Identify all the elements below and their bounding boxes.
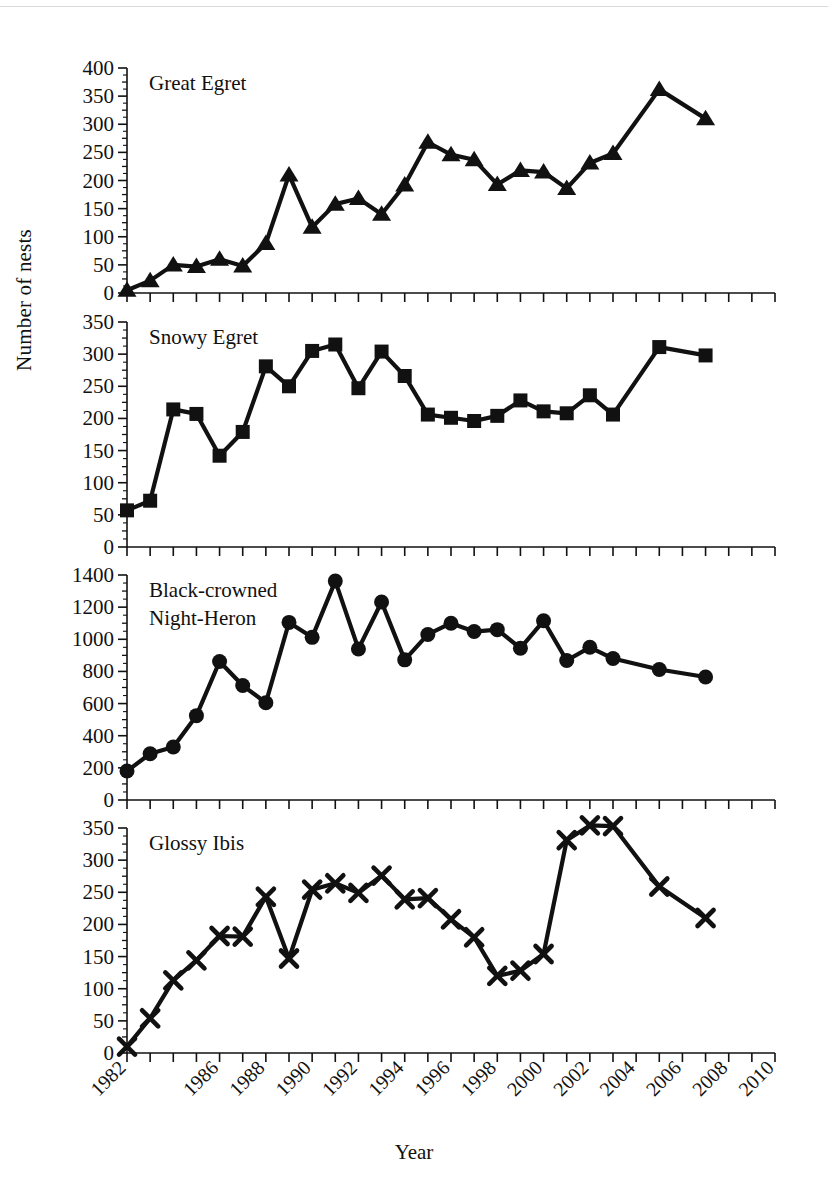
y-tick-label: 600 xyxy=(83,692,115,716)
data-point-marker xyxy=(189,407,203,421)
data-point-marker xyxy=(467,414,481,428)
panel-snowy-egret: 050100150200250300350Snowy Egret xyxy=(83,310,776,559)
data-point-marker xyxy=(350,885,366,901)
data-point-marker xyxy=(328,338,342,352)
y-tick-label: 150 xyxy=(83,197,115,221)
y-tick-label: 1000 xyxy=(72,627,114,651)
data-point-marker xyxy=(513,393,527,407)
data-point-marker xyxy=(652,340,666,354)
x-tick-label: 1994 xyxy=(364,1056,408,1100)
data-point-marker xyxy=(143,746,158,761)
y-tick-label: 100 xyxy=(83,471,115,495)
y-tick-label: 350 xyxy=(83,84,115,108)
x-tick-label: 2002 xyxy=(549,1056,593,1100)
data-point-marker xyxy=(305,344,319,358)
data-point-marker xyxy=(582,640,597,655)
data-point-marker xyxy=(213,449,227,463)
panel-title: Great Egret xyxy=(149,71,247,95)
x-axis-label: Year xyxy=(0,1140,828,1165)
data-point-marker xyxy=(536,613,551,628)
panel-glossy-ibis: 050100150200250300350Glossy Ibis xyxy=(83,816,776,1065)
panel-black-crowned-night-heron: 0200400600800100012001400Black-crownedNi… xyxy=(72,563,775,812)
y-axis-label: Number of nests xyxy=(12,170,37,430)
data-point-marker xyxy=(282,379,296,393)
data-point-marker xyxy=(651,879,667,895)
top-rule xyxy=(0,6,828,7)
x-tick-label: 1988 xyxy=(225,1056,269,1100)
x-tick-label: 1990 xyxy=(271,1056,315,1100)
x-tick-label: 2010 xyxy=(734,1056,778,1100)
x-tick-label: 1992 xyxy=(317,1056,361,1100)
data-point-marker xyxy=(444,411,458,425)
data-point-marker xyxy=(166,402,180,416)
data-point-marker xyxy=(305,630,320,645)
data-point-marker xyxy=(420,627,435,642)
data-point-marker xyxy=(282,615,297,630)
data-point-marker xyxy=(328,574,343,589)
y-tick-label: 800 xyxy=(83,659,115,683)
data-point-marker xyxy=(259,359,273,373)
data-point-marker xyxy=(490,622,505,637)
data-point-marker xyxy=(444,616,459,631)
y-tick-label: 50 xyxy=(93,253,114,277)
data-point-marker xyxy=(189,708,204,723)
data-point-marker xyxy=(652,662,667,677)
data-point-marker xyxy=(235,678,250,693)
data-point-marker xyxy=(349,190,368,206)
y-tick-label: 300 xyxy=(83,342,115,366)
data-point-marker xyxy=(698,670,713,685)
y-tick-label: 200 xyxy=(83,169,115,193)
data-point-marker xyxy=(120,503,134,517)
data-point-marker xyxy=(650,80,669,96)
y-tick-label: 250 xyxy=(83,880,115,904)
x-tick-label: 1986 xyxy=(179,1056,223,1100)
data-point-marker xyxy=(120,764,135,779)
x-tick-label: 1996 xyxy=(410,1056,454,1100)
data-point-marker xyxy=(210,250,229,266)
x-tick-label: 1998 xyxy=(456,1056,500,1100)
panel-title-line2: Night-Heron xyxy=(149,606,257,630)
y-tick-label: 200 xyxy=(83,912,115,936)
y-tick-label: 100 xyxy=(83,977,115,1001)
data-point-marker xyxy=(143,494,157,508)
data-point-marker xyxy=(256,235,275,251)
data-point-marker xyxy=(467,624,482,639)
y-tick-label: 400 xyxy=(83,724,115,748)
plot-svg: 050100150200250300350400Great Egret05010… xyxy=(0,0,828,1193)
y-tick-label: 350 xyxy=(83,310,115,334)
y-tick-label: 250 xyxy=(83,140,115,164)
data-point-marker xyxy=(490,409,504,423)
data-point-marker xyxy=(351,381,365,395)
data-point-marker xyxy=(606,651,621,666)
data-point-marker xyxy=(280,166,299,182)
data-point-marker xyxy=(166,739,181,754)
data-point-marker xyxy=(188,952,204,968)
data-point-marker xyxy=(560,406,574,420)
panel-title: Glossy Ibis xyxy=(149,831,244,855)
data-point-marker xyxy=(418,133,437,149)
data-point-marker xyxy=(559,653,574,668)
y-tick-label: 100 xyxy=(83,225,115,249)
data-point-marker xyxy=(142,1010,158,1026)
panel-title: Black-crowned xyxy=(149,578,278,602)
data-point-marker xyxy=(212,654,227,669)
x-tick-label: 2004 xyxy=(595,1056,639,1100)
data-point-marker xyxy=(395,176,414,192)
y-tick-label: 50 xyxy=(93,1009,114,1033)
data-point-marker xyxy=(513,641,528,656)
data-point-marker xyxy=(374,595,389,610)
y-tick-label: 1200 xyxy=(72,595,114,619)
data-point-marker xyxy=(165,972,181,988)
data-point-marker xyxy=(537,404,551,418)
y-tick-label: 150 xyxy=(83,945,115,969)
data-point-marker xyxy=(374,868,390,884)
data-point-marker xyxy=(583,388,597,402)
data-point-marker xyxy=(421,408,435,422)
x-tick-label: 2006 xyxy=(641,1056,685,1100)
y-tick-label: 400 xyxy=(83,56,115,80)
data-point-marker xyxy=(351,641,366,656)
y-tick-label: 200 xyxy=(83,756,115,780)
data-point-marker xyxy=(698,910,714,926)
y-tick-label: 0 xyxy=(104,788,115,812)
data-point-marker xyxy=(606,408,620,422)
